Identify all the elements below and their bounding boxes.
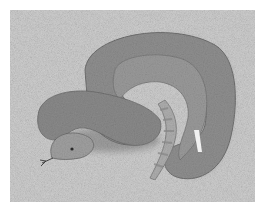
snake-illustration: [10, 10, 255, 202]
snake-eye: [70, 147, 73, 150]
snake-photo: [10, 10, 255, 202]
